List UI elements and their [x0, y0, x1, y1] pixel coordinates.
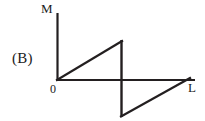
- ramp-segment-rising-first: [57, 41, 122, 80]
- figure-panel-b: (B) M 0 L: [0, 0, 205, 121]
- panel-label: (B): [12, 51, 33, 66]
- origin-label: 0: [50, 83, 56, 95]
- y-axis-label: M: [41, 2, 53, 15]
- ramp-segment-rising-second: [121, 78, 190, 117]
- x-axis-label: L: [188, 81, 196, 94]
